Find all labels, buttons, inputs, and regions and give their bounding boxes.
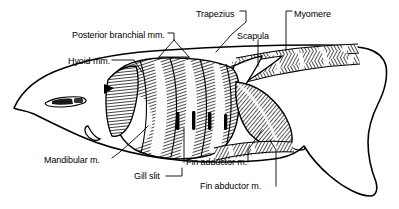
label-fin-abductor-m: Fin abductor m.	[200, 181, 261, 191]
label-fin-adductor-m: Fin adductor m.	[186, 157, 247, 167]
label-scapula: Scapula	[237, 31, 269, 41]
label-hyoid-mm: Hyoid mm.	[68, 56, 110, 66]
leader-gill-slit	[166, 168, 182, 176]
label-trapezius: Trapezius	[196, 9, 234, 19]
label-gill-slit: Gill slit	[134, 171, 160, 181]
leader-branchial-stem	[168, 33, 174, 40]
shark-anatomy-illustration	[0, 0, 399, 209]
label-myomere: Myomere	[294, 9, 331, 19]
label-posterior-branchial-mm: Posterior branchial mm.	[72, 30, 165, 40]
leader-myomere	[286, 11, 292, 50]
label-mandibular-m: Mandibular m.	[44, 155, 100, 165]
figure-canvas: Trapezius Myomere Posterior branchial mm…	[0, 0, 399, 209]
